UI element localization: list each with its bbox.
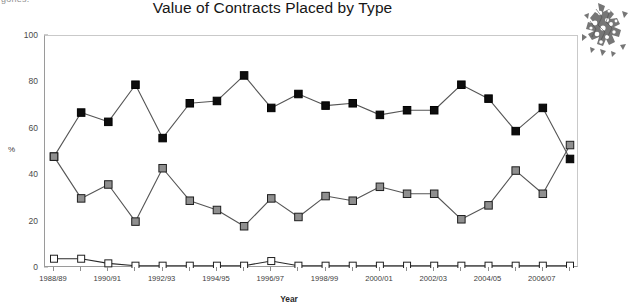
x-axis-tick-label: 2000/01 [365,274,392,283]
data-point [539,190,547,198]
y-axis-tick-label: 40 [14,169,38,179]
x-axis-tick-label: 2004/05 [474,274,501,283]
series-grey-filled-square-series [50,141,574,230]
x-axis-tick-label: 2006/07 [528,274,555,283]
x-axis-tick-label: 2002/03 [419,274,446,283]
data-point [77,195,85,203]
x-axis-tick-mark [542,267,543,271]
x-axis-tick-mark [270,267,271,271]
data-point [539,104,547,112]
y-axis-tick-label: 60 [14,123,38,133]
data-point [78,255,85,262]
x-axis-tick-mark [107,267,108,271]
data-point [512,262,519,268]
data-point [403,106,411,114]
y-axis-label: % [8,145,15,154]
x-axis-tick-mark [569,267,570,271]
data-point [213,206,221,214]
data-point [295,213,303,221]
data-point [403,190,411,198]
x-axis-tick-mark [406,267,407,271]
x-axis-label: Year [0,294,578,304]
data-point [159,134,167,142]
data-point [485,262,492,268]
data-point [186,197,194,205]
x-axis-tick-mark [460,267,461,271]
x-axis-tick-mark [243,267,244,271]
data-point [376,183,384,191]
data-point [132,262,139,268]
data-point [213,262,220,268]
y-axis-tick-label: 0 [14,262,38,272]
data-point [458,81,466,89]
data-point [349,100,357,108]
y-axis-tick-label: 100 [14,30,38,40]
x-axis-tick-label: 1994/95 [202,274,229,283]
data-point [431,262,438,268]
data-point [105,118,113,126]
data-point [268,258,275,265]
series-white-open-square-series [51,255,574,268]
data-point [404,262,411,268]
x-axis-tick-label: 1990/91 [94,274,121,283]
y-axis-tick-label: 20 [14,216,38,226]
data-point [458,216,466,224]
data-point [241,262,248,268]
x-axis-tick-mark [433,267,434,271]
data-point [566,155,574,163]
data-point [51,255,58,262]
data-point [322,262,329,268]
data-point [132,218,140,226]
data-point [105,260,112,267]
data-point [322,192,330,200]
data-point [430,106,438,114]
data-point [186,262,193,268]
screenshot-stage: gories. Value of Contracts Placed by Typ… [0,0,633,307]
data-point [159,164,167,172]
x-axis-tick-mark [80,267,81,271]
data-point [458,262,465,268]
data-point [295,90,303,98]
data-point [567,262,574,268]
series-black-filled-square-series [50,72,574,163]
data-point [539,262,546,268]
data-point [186,100,194,108]
data-point [512,127,520,134]
data-point [240,72,248,80]
x-axis-tick-label: 1992/93 [148,274,175,283]
data-point [268,195,276,203]
data-point [213,97,221,105]
x-axis-tick-label: 1996/97 [257,274,284,283]
x-axis-tick-label: 1988/89 [39,274,66,283]
data-point [566,141,574,149]
scanned-clipart-artifact [576,1,632,59]
data-point [240,222,248,230]
data-point [485,202,493,210]
data-point [376,111,384,119]
x-axis-tick-mark [297,267,298,271]
data-point [77,109,85,117]
y-axis-tick-label: 80 [14,76,38,86]
data-point [268,104,276,112]
x-axis-tick-mark [488,267,489,271]
data-point [322,102,330,110]
chart-plot-svg [45,36,579,268]
x-axis-tick-mark [189,267,190,271]
x-axis-tick-mark [53,267,54,271]
x-axis-tick-mark [162,267,163,271]
x-axis-tick-mark [352,267,353,271]
data-point [50,153,58,161]
data-point [105,181,113,189]
data-point [512,167,520,175]
x-axis-tick-mark [134,267,135,271]
data-point [349,197,357,205]
data-point [295,262,302,268]
data-point [430,190,438,198]
x-axis-tick-mark [515,267,516,271]
x-axis-tick-mark [216,267,217,271]
data-point [132,81,140,89]
data-point [349,262,356,268]
x-axis-tick-label: 1998/99 [311,274,338,283]
x-axis-tick-mark [379,267,380,271]
data-point [485,95,493,103]
